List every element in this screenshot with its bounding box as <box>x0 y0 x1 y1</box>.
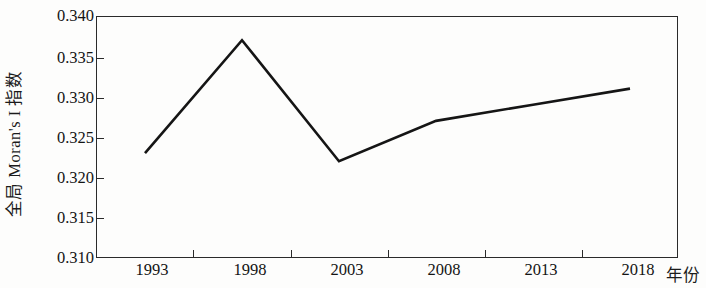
y-tick-label: 0.325 <box>24 130 94 147</box>
x-tick-mark <box>582 250 583 258</box>
y-tick-mark <box>96 218 104 219</box>
y-tick-label: 0.330 <box>24 90 94 107</box>
y-tick-mark <box>96 98 104 99</box>
y-tick-mark <box>96 138 104 139</box>
x-tick-label: 2003 <box>331 262 364 279</box>
x-tick-mark <box>485 250 486 258</box>
x-tick-label: 2018 <box>622 262 655 279</box>
y-tick-label: 0.310 <box>24 250 94 267</box>
x-tick-mark <box>193 250 194 258</box>
x-axis-title: 年份 <box>666 262 700 286</box>
y-axis-title: 全局 Moran's I 指数 <box>0 0 26 288</box>
y-tick-mark <box>96 58 104 59</box>
x-tick-mark <box>291 250 292 258</box>
y-tick-label: 0.320 <box>24 170 94 187</box>
x-tick-label: 2013 <box>525 262 558 279</box>
line-chart-figure: 全局 Moran's I 指数 0.340 0.335 0.330 0.325 … <box>0 0 706 288</box>
x-tick-mark <box>388 250 389 258</box>
x-tick-label: 1993 <box>136 262 169 279</box>
x-tick-label: 1998 <box>234 262 267 279</box>
y-tick-label: 0.335 <box>24 50 94 67</box>
plot-area-frame <box>96 16 678 258</box>
y-tick-label: 0.315 <box>24 210 94 227</box>
x-tick-label: 2008 <box>428 262 461 279</box>
y-tick-label: 0.340 <box>24 8 94 25</box>
y-tick-mark <box>96 178 104 179</box>
